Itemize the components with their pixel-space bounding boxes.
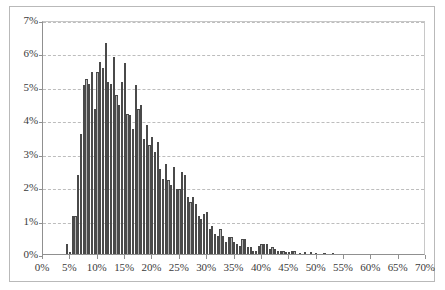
- x-tick-mark: [398, 255, 399, 259]
- x-tick-mark: [42, 255, 43, 259]
- y-axis-labels: 0%1%2%3%4%5%6%7%: [0, 21, 38, 255]
- x-tick-mark: [69, 255, 70, 259]
- x-tick-mark: [370, 255, 371, 259]
- histogram-bar: [293, 251, 295, 254]
- x-axis-labels: 0%5%10%15%20%25%30%35%40%45%50%55%60%65%…: [0, 262, 445, 278]
- plot-area: [42, 21, 425, 255]
- histogram-bar: [299, 253, 301, 254]
- y-tick-label: 6%: [4, 48, 38, 59]
- bar-series: [43, 22, 424, 254]
- y-tick-label: 7%: [4, 15, 38, 26]
- x-tick-mark: [151, 255, 152, 259]
- y-tick-label: 2%: [4, 182, 38, 193]
- y-tick-label: 5%: [4, 82, 38, 93]
- y-tick-label: 0%: [4, 249, 38, 260]
- x-tick-mark: [425, 255, 426, 259]
- y-tick-label: 1%: [4, 216, 38, 227]
- y-tick-label: 4%: [4, 115, 38, 126]
- x-tick-mark: [124, 255, 125, 259]
- histogram-bar: [310, 252, 312, 254]
- x-tick-mark: [261, 255, 262, 259]
- x-tick-mark: [234, 255, 235, 259]
- histogram-bar: [332, 253, 334, 254]
- x-tick-mark: [206, 255, 207, 259]
- x-tick-label: 70%: [405, 262, 445, 273]
- histogram-bar: [304, 252, 306, 254]
- histogram-figure: 0%1%2%3%4%5%6%7% 0%5%10%15%20%25%30%35%4…: [0, 0, 445, 290]
- histogram-bar: [323, 253, 325, 254]
- x-tick-mark: [179, 255, 180, 259]
- x-tick-mark: [316, 255, 317, 259]
- x-tick-mark: [288, 255, 289, 259]
- y-tick-label: 3%: [4, 149, 38, 160]
- x-tick-mark: [97, 255, 98, 259]
- histogram-bar: [315, 253, 317, 254]
- x-tick-mark: [343, 255, 344, 259]
